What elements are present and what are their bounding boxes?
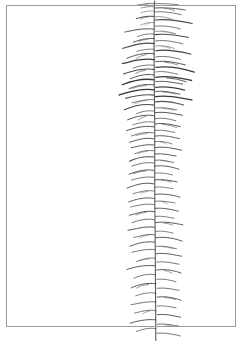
paper-background [0,0,249,341]
tree-sketch-svg [0,0,249,341]
drawing-canvas: Conifer tree sketch spruce / fir tree pe… [0,0,249,341]
